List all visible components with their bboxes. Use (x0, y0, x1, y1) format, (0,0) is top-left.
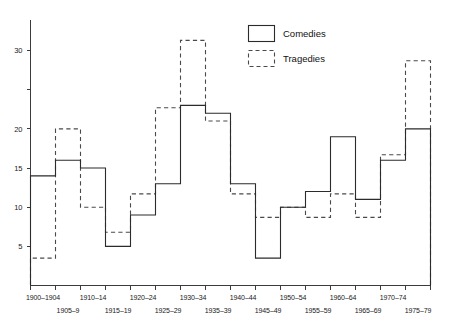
x-tick-label: 1975–79 (405, 307, 432, 314)
chart-container: 510152030 1900–19041905–91910–141915–191… (0, 0, 449, 328)
legend-swatch-comedies (249, 26, 275, 42)
y-tick-label: 30 (14, 46, 22, 55)
x-tick-label: 1900–1904 (26, 294, 60, 301)
x-tick-label: 1910–14 (80, 294, 107, 301)
y-axis-ticks: 510152030 (14, 46, 30, 251)
x-tick-label: 1945–49 (255, 307, 282, 314)
chart-legend: Comedies Tragedies (249, 26, 327, 67)
x-tick-label: 1960–64 (330, 294, 357, 301)
legend-label-comedies: Comedies (283, 28, 326, 39)
series-line-comedies (31, 105, 431, 285)
legend-label-tragedies: Tragedies (283, 53, 325, 64)
y-tick-label: 10 (14, 203, 22, 212)
x-tick-label: 1935–39 (205, 307, 232, 314)
legend-swatch-tragedies (249, 51, 275, 67)
x-tick-label: 1970–74 (380, 294, 407, 301)
y-tick-label: 15 (14, 164, 22, 173)
y-tick-label: 20 (14, 125, 22, 134)
x-axis-tick-labels: 1900–19041905–91910–141915–191920–241925… (26, 294, 432, 314)
x-tick-label: 1915–19 (105, 307, 132, 314)
x-tick-label: 1965–69 (355, 307, 382, 314)
x-tick-label: 1940–44 (230, 294, 257, 301)
x-tick-label: 1950–54 (280, 294, 307, 301)
x-tick-label: 1920–24 (130, 294, 157, 301)
x-tick-label: 1930–34 (180, 294, 207, 301)
x-tick-label: 1955–59 (305, 307, 332, 314)
step-histogram-chart: 510152030 1900–19041905–91910–141915–191… (0, 0, 449, 328)
x-tick-label: 1925–29 (155, 307, 182, 314)
x-axis-ticks (31, 286, 431, 290)
x-tick-label: 1905–9 (57, 307, 80, 314)
y-tick-label: 5 (18, 242, 22, 251)
